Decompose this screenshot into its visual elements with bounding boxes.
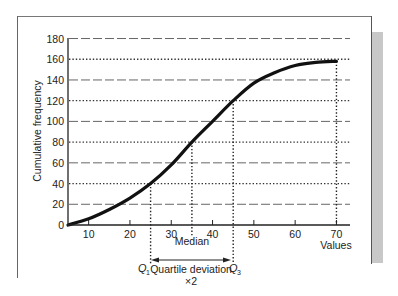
y-tick-label: 140 xyxy=(46,74,64,86)
y-tick-label: 0 xyxy=(58,219,64,231)
ogive-curve xyxy=(68,61,336,225)
x-tick-label: 20 xyxy=(124,228,136,240)
quartile-deviation-arrow xyxy=(151,258,231,263)
y-tick-label: 60 xyxy=(52,157,64,169)
x-tick-label: 60 xyxy=(289,228,301,240)
median-label: Median xyxy=(175,235,210,247)
ogive-chart: 020406080100120140160180 10203040506070 … xyxy=(0,0,398,296)
y-tick-label: 160 xyxy=(46,53,64,65)
quartile-deviation-label: Quartile deviation xyxy=(150,263,232,275)
y-tick-label: 100 xyxy=(46,115,64,127)
q3-label: Q 3 xyxy=(229,262,241,276)
svg-text:3: 3 xyxy=(237,269,241,276)
y-axis-label: Cumulative frequency xyxy=(31,79,43,181)
q1-label: Q 1 xyxy=(138,262,150,276)
y-tick-label: 80 xyxy=(52,136,64,148)
x-axis-label: Values xyxy=(320,239,351,251)
svg-text:1: 1 xyxy=(146,269,150,276)
x-tick-label: 50 xyxy=(248,228,260,240)
y-tick-label: 180 xyxy=(46,33,64,45)
x-tick-label: 10 xyxy=(83,228,95,240)
x-axis-ticks: 10203040506070 xyxy=(83,220,343,240)
quartile-deviation-multiplier: ×2 xyxy=(185,275,197,287)
y-tick-label: 20 xyxy=(52,198,64,210)
y-tick-label: 40 xyxy=(52,178,64,190)
y-axis-ticks: 020406080100120140160180 xyxy=(46,33,64,231)
y-tick-label: 120 xyxy=(46,95,64,107)
